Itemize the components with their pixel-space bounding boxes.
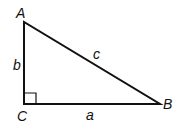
side-label-b: b <box>13 57 21 73</box>
vertex-label-a: A <box>15 5 25 21</box>
triangle <box>24 22 160 104</box>
side-label-a: a <box>86 107 94 123</box>
vertex-label-c: C <box>17 108 28 124</box>
vertex-label-b: B <box>163 96 172 112</box>
side-label-c: c <box>93 46 100 62</box>
triangle-diagram: A B C a b c <box>0 0 179 127</box>
right-angle-marker <box>24 93 36 104</box>
